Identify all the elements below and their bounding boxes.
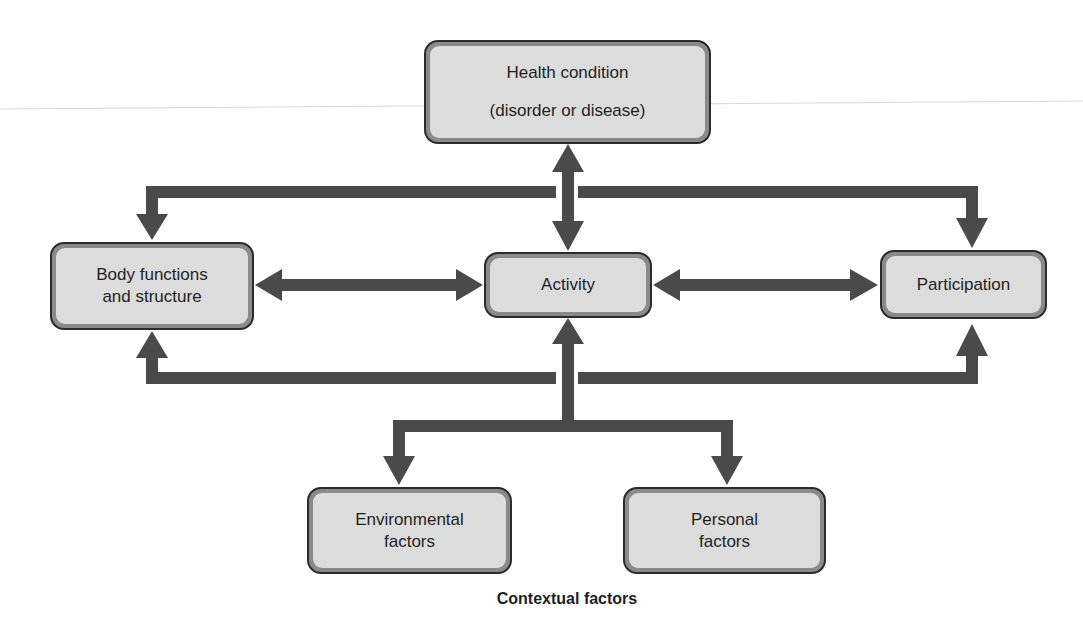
node-label: factors (384, 531, 435, 553)
bottom-left-stem (146, 354, 158, 384)
node-body-functions: Body functions and structure (50, 242, 254, 330)
arrowhead-up-health (552, 144, 584, 172)
node-label: Health condition (507, 54, 629, 92)
lower-left-stem (393, 420, 405, 460)
node-label: and structure (102, 286, 201, 308)
arrowhead-down-body (136, 214, 168, 240)
arrowhead-up-activity (552, 318, 584, 344)
arrowhead-left-activity (653, 269, 680, 301)
node-label: Environmental (355, 509, 464, 531)
icf-diagram: Health condition (disorder or disease) B… (0, 0, 1083, 634)
arrowhead-up-body (136, 331, 168, 358)
central-stem (562, 340, 574, 432)
node-health-condition: Health condition (disorder or disease) (424, 40, 711, 144)
contextual-factors-caption: Contextual factors (467, 590, 667, 608)
node-participation: Participation (880, 250, 1047, 319)
lower-branch-bar (393, 420, 733, 432)
arrowhead-down-activity (552, 221, 584, 251)
activity-participation-shaft (676, 279, 856, 291)
arrowhead-up-participation (956, 324, 988, 356)
node-personal-factors: Personal factors (623, 487, 826, 574)
arrowhead-right-participation (850, 269, 878, 301)
node-activity: Activity (484, 252, 652, 318)
arrowhead-left-body (255, 269, 282, 301)
lower-right-stem (721, 420, 733, 460)
arrowhead-down-environmental (383, 456, 415, 485)
node-label: factors (699, 531, 750, 553)
arrowhead-right-activity (456, 269, 483, 301)
top-right-stem (966, 186, 978, 220)
bottom-bar-right (578, 372, 978, 384)
top-bar-right (578, 186, 978, 198)
node-label: Body functions (96, 264, 208, 286)
node-label: (disorder or disease) (490, 92, 646, 130)
node-label: Personal (691, 509, 758, 531)
node-environmental-factors: Environmental factors (307, 487, 512, 574)
top-left-stem (146, 186, 158, 216)
body-activity-shaft (278, 279, 462, 291)
node-label: Participation (917, 274, 1011, 296)
arrowhead-down-personal (711, 456, 743, 485)
arrowhead-down-participation (956, 218, 988, 248)
bottom-bar-left (146, 372, 556, 384)
node-label: Activity (541, 274, 595, 296)
bottom-right-stem (966, 352, 978, 384)
top-bar-left (146, 186, 556, 198)
